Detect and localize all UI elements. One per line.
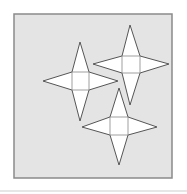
bottom-divider bbox=[0, 190, 187, 192]
gray-panel bbox=[14, 14, 172, 178]
star-nets-diagram bbox=[0, 0, 187, 194]
